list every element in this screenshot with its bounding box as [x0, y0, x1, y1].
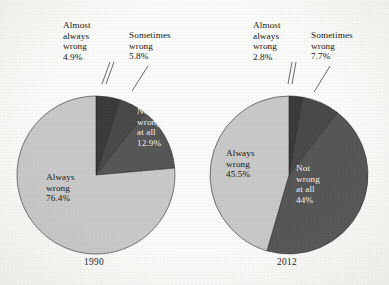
leader-line-1990-almost-always	[102, 62, 110, 84]
label-line: wrong	[129, 41, 171, 52]
label-percent: 44%	[296, 195, 320, 206]
label-line: always	[63, 31, 91, 42]
label-percent: 5.8%	[129, 51, 171, 62]
label-line: wrong	[226, 159, 255, 170]
label-line: at all	[137, 127, 161, 138]
label-percent: 45.5%	[226, 169, 255, 180]
label-1990-almost-always-wrong: Almost always wrong 4.9%	[63, 20, 91, 62]
label-line: Not	[296, 163, 320, 174]
caption-1990: 1990	[84, 257, 104, 267]
label-line: wrong	[296, 174, 320, 185]
label-1990-sometimes-wrong: Sometimes wrong 5.8%	[129, 30, 171, 62]
leader-line-2012-almost-always	[288, 62, 292, 84]
label-percent: 12.9%	[137, 138, 161, 149]
label-1990-always-wrong: Always wrong 76.4%	[46, 172, 75, 204]
label-1990-not-wrong-at-all: Not wrong at all 12.9%	[137, 106, 161, 148]
label-line: wrong	[46, 183, 75, 194]
label-line: Sometimes	[311, 30, 353, 41]
label-line: wrong	[63, 41, 91, 52]
label-2012-sometimes-wrong: Sometimes wrong 7.7%	[311, 30, 353, 62]
label-2012-always-wrong: Always wrong 45.5%	[226, 148, 255, 180]
label-2012-almost-always-wrong: Almost always wrong 2.8%	[253, 20, 281, 62]
label-line: Almost	[253, 20, 281, 31]
figure-canvas: Almost always wrong 4.9% Sometimes wrong…	[0, 0, 389, 285]
caption-2012: 2012	[277, 257, 297, 267]
leader-line-1990-sometimes	[132, 66, 148, 91]
leader-line-2012-sometimes	[314, 66, 330, 92]
label-line: wrong	[253, 41, 281, 52]
label-line: Sometimes	[129, 30, 171, 41]
leader-line-2012-almost-always-2	[292, 62, 296, 84]
callout-leader-lines	[102, 62, 330, 92]
label-percent: 2.8%	[253, 52, 281, 63]
label-line: Almost	[63, 20, 91, 31]
label-percent: 4.9%	[63, 52, 91, 63]
label-percent: 76.4%	[46, 193, 75, 204]
label-line: Always	[46, 172, 75, 183]
label-line: Always	[226, 148, 255, 159]
label-line: wrong	[137, 117, 161, 128]
label-line: at all	[296, 184, 320, 195]
label-2012-not-wrong-at-all: Not wrong at all 44%	[296, 163, 320, 205]
label-line: wrong	[311, 41, 353, 52]
label-line: Not	[137, 106, 161, 117]
label-percent: 7.7%	[311, 51, 353, 62]
label-line: always	[253, 31, 281, 42]
leader-line-1990-almost-always-2	[106, 62, 114, 84]
